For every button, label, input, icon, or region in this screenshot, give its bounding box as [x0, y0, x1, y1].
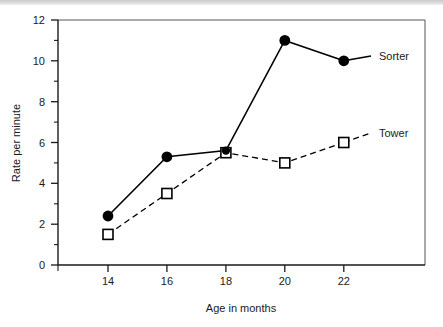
sorter-marker: [103, 211, 114, 222]
sorter-marker: [338, 55, 349, 66]
x-axis-tick-labels: 14 16 18 20 22: [102, 275, 350, 287]
x-tick-label: 20: [279, 275, 291, 287]
x-tick-label: 14: [102, 275, 114, 287]
y-tick-label: 4: [39, 177, 45, 189]
line-chart-canvas: 0 2 4 6 8 10 12 14 16 18 20 22 Age in mo…: [0, 0, 443, 327]
sorter-line: [108, 40, 344, 216]
series-label-tower: Tower: [379, 127, 409, 139]
tower-marker: [339, 138, 349, 148]
y-tick-label: 12: [33, 14, 45, 26]
series-label-sorter: Sorter: [379, 50, 409, 62]
sorter-marker: [279, 35, 290, 46]
sorter-marker: [162, 151, 173, 162]
sorter-marker: [222, 146, 230, 154]
y-tick-label: 10: [33, 55, 45, 67]
x-axis-title: Age in months: [206, 302, 277, 314]
y-axis-major-ticks: [51, 20, 58, 265]
x-tick-label: 22: [338, 275, 350, 287]
x-tick-label: 18: [220, 275, 232, 287]
tower-marker: [280, 158, 290, 168]
tower-marker: [162, 189, 172, 199]
y-tick-label: 6: [39, 137, 45, 149]
y-axis-title: Rate per minute: [10, 104, 22, 182]
series-tower: [108, 133, 371, 234]
top-banner-strip: [0, 0, 443, 5]
chart-figure: 0 2 4 6 8 10 12 14 16 18 20 22 Age in mo…: [0, 0, 443, 327]
tower-marker: [103, 229, 113, 239]
sorter-markers: [103, 35, 350, 221]
y-tick-label: 0: [39, 259, 45, 271]
x-axis-ticks: [58, 265, 344, 272]
y-axis-tick-labels: 0 2 4 6 8 10 12: [33, 14, 45, 271]
y-tick-label: 8: [39, 96, 45, 108]
series-sorter: [108, 40, 371, 216]
x-tick-label: 16: [161, 275, 173, 287]
y-tick-label: 2: [39, 218, 45, 230]
